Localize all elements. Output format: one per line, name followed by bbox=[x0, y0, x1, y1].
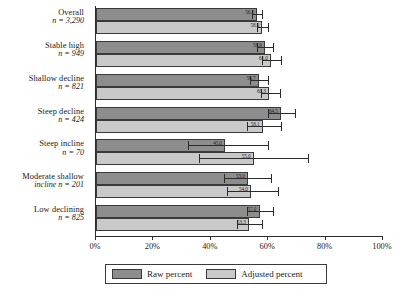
legend-label-raw: Raw percent bbox=[147, 269, 192, 279]
bar-rect bbox=[96, 8, 257, 21]
x-axis-tick-label: 60% bbox=[247, 242, 287, 251]
bar-raw-percent: 58.9 bbox=[96, 41, 383, 54]
bar-value-label: 58.0 bbox=[250, 22, 259, 28]
bar-raw-percent: 53.0 bbox=[96, 172, 383, 185]
bar-rect bbox=[96, 21, 262, 34]
bar-rect bbox=[96, 205, 260, 218]
category-label: Steep declinen = 424 bbox=[0, 107, 84, 125]
bar-value-label: 57.0 bbox=[248, 206, 257, 212]
error-bar-cap-high bbox=[281, 122, 282, 131]
error-bar-cap-high bbox=[280, 89, 281, 98]
bar-rect bbox=[96, 218, 249, 231]
bar-value-label: 58.9 bbox=[253, 42, 262, 48]
bar-adjusted-percent: 58.1 bbox=[96, 120, 383, 133]
error-bar-cap-high bbox=[308, 154, 309, 163]
bar-raw-percent: 56.7 bbox=[96, 74, 383, 87]
bar-group: 56.760.3 bbox=[96, 72, 383, 105]
bar-raw-percent: 57.0 bbox=[96, 205, 383, 218]
bar-value-label: 56.7 bbox=[247, 75, 256, 81]
legend-item-raw: Raw percent bbox=[112, 269, 192, 279]
x-axis-tick-label: 0% bbox=[75, 242, 115, 251]
x-axis-tick bbox=[267, 236, 268, 240]
bar-group: 57.053.3 bbox=[96, 203, 383, 236]
category-label: Low decliningn = 825 bbox=[0, 205, 84, 223]
bar-value-label: 55.0 bbox=[242, 153, 251, 159]
x-axis-tick-label: 80% bbox=[305, 242, 345, 251]
bar-rect bbox=[96, 41, 265, 54]
bar-value-label: 45.0 bbox=[213, 140, 222, 146]
error-bar-line bbox=[188, 145, 268, 146]
error-bar-cap-high bbox=[271, 174, 272, 183]
grouped-bar-chart: Overalln = 3,290Stable highn = 949Shallo… bbox=[0, 0, 404, 291]
error-bar-cap-high bbox=[262, 10, 263, 19]
error-bar-cap-high bbox=[273, 43, 274, 52]
bar-group: 45.055.0 bbox=[96, 137, 383, 170]
error-bar-line bbox=[224, 178, 271, 179]
bar-value-label: 53.0 bbox=[236, 173, 245, 179]
legend-swatch-adjusted-icon bbox=[206, 269, 236, 279]
bar-adjusted-percent: 53.3 bbox=[96, 218, 383, 231]
bar-value-label: 61.0 bbox=[259, 55, 268, 61]
bar-rect bbox=[96, 74, 259, 87]
category-label: Steep inclinen = 70 bbox=[0, 139, 84, 157]
bar-group: 64.558.1 bbox=[96, 105, 383, 138]
error-bar-cap-high bbox=[268, 141, 269, 150]
x-axis-tick-label: 100% bbox=[362, 242, 402, 251]
error-bar-line bbox=[199, 158, 308, 159]
bar-value-label: 60.3 bbox=[257, 88, 266, 94]
bar-adjusted-percent: 61.0 bbox=[96, 54, 383, 67]
bar-group: 58.961.0 bbox=[96, 39, 383, 72]
error-bar-cap-high bbox=[278, 187, 279, 196]
category-label: Shallow declinen = 821 bbox=[0, 74, 84, 92]
bar-group: 56.258.0 bbox=[96, 6, 383, 39]
category-label-n: n = 949 bbox=[0, 50, 84, 59]
category-label-n: n = 3,290 bbox=[0, 17, 84, 26]
x-axis-tick bbox=[210, 236, 211, 240]
bar-adjusted-percent: 55.0 bbox=[96, 152, 383, 165]
bar-raw-percent: 64.5 bbox=[96, 107, 383, 120]
bar-rect bbox=[96, 120, 263, 133]
bar-rect bbox=[96, 107, 281, 120]
category-label-n: n = 70 bbox=[0, 149, 84, 158]
legend-swatch-raw-icon bbox=[112, 269, 142, 279]
bar-rect bbox=[96, 54, 271, 67]
category-axis-labels: Overalln = 3,290Stable highn = 949Shallo… bbox=[0, 0, 88, 236]
error-bar-cap-high bbox=[262, 220, 263, 229]
bar-value-label: 58.1 bbox=[251, 121, 260, 127]
error-bar-cap-low bbox=[199, 154, 200, 163]
error-bar-cap-high bbox=[295, 109, 296, 118]
error-bar-cap-high bbox=[281, 56, 282, 65]
bar-value-label: 54.0 bbox=[239, 186, 248, 192]
x-axis-tick bbox=[325, 236, 326, 240]
plot-area: 56.258.058.961.056.760.364.558.145.055.0… bbox=[95, 6, 383, 236]
category-label: Stable highn = 949 bbox=[0, 41, 84, 59]
error-bar-cap-low bbox=[188, 141, 189, 150]
bar-value-label: 53.3 bbox=[237, 219, 246, 225]
x-axis-tick bbox=[152, 236, 153, 240]
bar-value-label: 64.5 bbox=[269, 108, 278, 114]
category-label-n: n = 825 bbox=[0, 214, 84, 223]
error-bar-cap-low bbox=[227, 187, 228, 196]
chart-legend: Raw percent Adjusted percent bbox=[105, 264, 327, 284]
category-label-n: n = 821 bbox=[0, 83, 84, 92]
x-axis-tick bbox=[382, 236, 383, 240]
x-axis-tick-label: 20% bbox=[132, 242, 172, 251]
error-bar-cap-low bbox=[247, 122, 248, 131]
bar-raw-percent: 45.0 bbox=[96, 139, 383, 152]
error-bar-cap-low bbox=[224, 174, 225, 183]
bar-raw-percent: 56.2 bbox=[96, 8, 383, 21]
bar-rect bbox=[96, 87, 269, 100]
error-bar-cap-high bbox=[268, 23, 269, 32]
x-axis-line bbox=[95, 236, 382, 237]
error-bar-line bbox=[227, 191, 279, 192]
error-bar-cap-high bbox=[268, 76, 269, 85]
category-label: Overalln = 3,290 bbox=[0, 8, 84, 26]
x-axis-tick-label: 40% bbox=[190, 242, 230, 251]
bar-group: 53.054.0 bbox=[96, 170, 383, 203]
category-label: Moderate shallowincline n = 201 bbox=[0, 172, 84, 190]
bar-adjusted-percent: 54.0 bbox=[96, 185, 383, 198]
bar-value-label: 56.2 bbox=[245, 9, 254, 15]
legend-item-adjusted: Adjusted percent bbox=[206, 269, 302, 279]
category-label-n: n = 424 bbox=[0, 116, 84, 125]
x-axis-tick bbox=[95, 236, 96, 240]
